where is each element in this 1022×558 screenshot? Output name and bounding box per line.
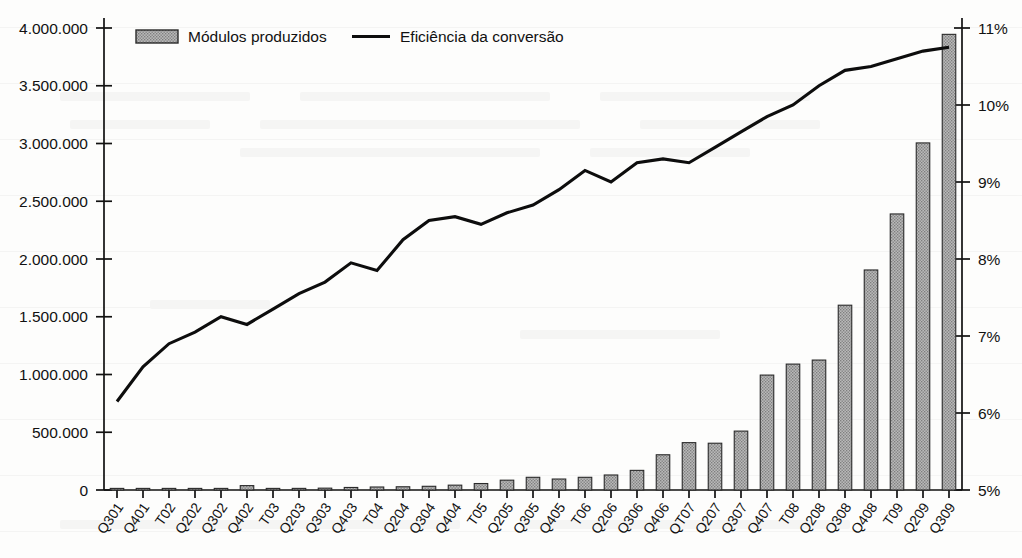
category-axis-tick-label: Q403 <box>328 499 361 536</box>
category-axis-tick-label: QT07 <box>665 499 698 537</box>
category-axis-tick-label: Q307 <box>718 499 751 536</box>
bar <box>942 34 956 490</box>
category-axis: Q301Q401T02Q202Q302Q402T03Q203Q303Q403T0… <box>94 490 962 537</box>
bar <box>240 486 254 490</box>
bar <box>422 486 436 490</box>
bar <box>682 443 696 490</box>
bar <box>396 487 410 490</box>
bar <box>760 375 774 490</box>
bar <box>526 477 540 490</box>
left-axis-tick-label: 3.500.000 <box>19 77 88 94</box>
category-axis-tick-label: Q301 <box>94 499 127 536</box>
category-axis-tick-label: Q408 <box>848 499 881 536</box>
bar <box>786 364 800 490</box>
hatched-swatch-icon <box>136 30 178 43</box>
right-axis-tick-label: 6% <box>978 405 1001 422</box>
category-axis-tick-label: Q407 <box>744 499 777 536</box>
bar <box>552 479 566 490</box>
right-axis-tick-label: 5% <box>978 482 1001 499</box>
bar <box>214 488 228 490</box>
left-axis-tick-label: 0 <box>79 482 88 499</box>
category-axis-tick-label: Q207 <box>692 499 725 536</box>
category-axis-tick-label: Q302 <box>198 499 231 536</box>
legend-label-eficiencia-da-conversao: Eficiência da conversão <box>400 28 564 45</box>
right-axis-tick-label: 8% <box>978 251 1001 268</box>
bar <box>630 470 644 490</box>
bar <box>812 360 826 490</box>
category-axis-tick-label: Q406 <box>640 499 673 536</box>
left-axis-tick-label: 4.000.000 <box>19 20 88 37</box>
category-axis-tick-label: Q401 <box>120 499 153 536</box>
category-axis-tick-label: Q308 <box>822 499 855 536</box>
bar <box>734 431 748 490</box>
bar <box>656 455 670 490</box>
category-axis-tick-label: Q202 <box>172 499 205 536</box>
category-axis-tick-label: Q309 <box>926 499 959 536</box>
bar <box>578 477 592 490</box>
bar <box>318 488 332 490</box>
bar <box>474 484 488 490</box>
bar <box>370 487 384 490</box>
bar <box>890 214 904 490</box>
right-axis-tick-label: 10% <box>978 97 1009 114</box>
bar <box>110 488 124 490</box>
left-axis-tick-label: 2.500.000 <box>19 193 88 210</box>
bar <box>292 488 306 490</box>
bar <box>838 305 852 490</box>
bar-series-modulos-produzidos <box>110 34 956 490</box>
line-series-eficiencia-da-conversao <box>117 47 949 401</box>
category-axis-tick-label: Q405 <box>536 499 569 536</box>
left-value-axis: 0500.0001.000.0001.500.0002.000.0002.500… <box>19 18 112 499</box>
category-axis-tick-label: Q404 <box>432 499 465 536</box>
right-axis-tick-label: 11% <box>978 20 1008 37</box>
conversion-efficiency-line <box>117 47 949 401</box>
category-axis-tick-label: Q306 <box>614 499 647 536</box>
left-axis-tick-label: 3.000.000 <box>19 135 88 152</box>
right-axis-tick-label: 7% <box>978 328 1001 345</box>
bar <box>266 488 280 490</box>
bar <box>162 488 176 490</box>
left-axis-tick-label: 1.000.000 <box>19 366 88 383</box>
category-axis-tick-label: Q204 <box>380 499 413 536</box>
chart-canvas: 0500.0001.000.0001.500.0002.000.0002.500… <box>0 0 1022 558</box>
bar <box>136 488 150 490</box>
bar <box>604 475 618 490</box>
bar <box>916 143 930 490</box>
right-axis-tick-label: 9% <box>978 174 1001 191</box>
chart-legend: Módulos produzidosEficiência da conversã… <box>136 28 564 45</box>
left-axis-tick-label: 500.000 <box>32 424 88 441</box>
category-axis-tick-label: Q305 <box>510 499 543 536</box>
category-axis-tick-label: Q303 <box>302 499 335 536</box>
bar <box>344 487 358 490</box>
bar <box>188 488 202 490</box>
category-axis-tick-label: Q205 <box>484 499 517 536</box>
left-axis-tick-label: 1.500.000 <box>19 308 88 325</box>
combo-chart: 0500.0001.000.0001.500.0002.000.0002.500… <box>0 0 1022 558</box>
bar <box>500 480 514 490</box>
right-percent-axis: 5%6%7%8%9%10%11% <box>954 18 1009 499</box>
bar <box>448 485 462 490</box>
category-axis-tick-label: Q203 <box>276 499 309 536</box>
category-axis-tick-label: Q206 <box>588 499 621 536</box>
category-axis-tick-label: Q208 <box>796 499 829 536</box>
left-axis-tick-label: 2.000.000 <box>19 251 88 268</box>
category-axis-tick-label: Q402 <box>224 499 257 536</box>
bar <box>708 443 722 490</box>
bar <box>864 270 878 490</box>
legend-label-modulos-produzidos: Módulos produzidos <box>188 28 327 45</box>
category-axis-tick-label: Q209 <box>900 499 933 536</box>
category-axis-tick-label: Q304 <box>406 499 439 536</box>
